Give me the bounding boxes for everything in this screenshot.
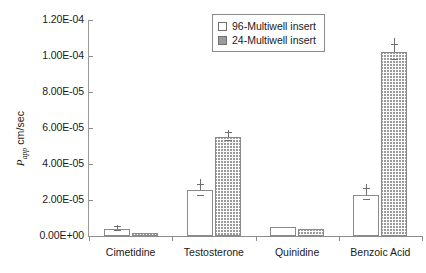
y-axis-tick-label: 2.00E-05 bbox=[42, 193, 84, 205]
bar-group bbox=[270, 20, 324, 236]
bar-group bbox=[187, 20, 241, 236]
y-axis-tick-label: 0.00E+00 bbox=[40, 229, 84, 241]
error-bar bbox=[394, 38, 395, 52]
y-axis-title: Papp cm/sec bbox=[12, 84, 32, 194]
y-axis-tick-label: 1.20E-04 bbox=[42, 13, 84, 25]
bar-group bbox=[104, 20, 158, 236]
error-bar-cap bbox=[363, 188, 370, 189]
legend-swatch-24-multiwell-icon bbox=[218, 36, 227, 45]
legend-label: 24-Multiwell insert bbox=[232, 34, 316, 46]
bar-24-multiwell bbox=[381, 52, 407, 236]
x-axis-category-label: Quinidine bbox=[256, 246, 339, 258]
error-bar-cap bbox=[391, 44, 398, 45]
x-axis-tick-mark bbox=[89, 236, 90, 241]
legend: 96-Multiwell insert24-Multiwell insert bbox=[212, 14, 325, 52]
legend-swatch-96-multiwell-icon bbox=[218, 22, 227, 31]
bar-96-multiwell bbox=[353, 195, 379, 236]
x-axis-category-label: Testosterone bbox=[172, 246, 255, 258]
error-bar-cap bbox=[114, 230, 121, 231]
plot-area bbox=[89, 20, 422, 236]
x-axis-tick-mark bbox=[339, 236, 340, 241]
legend-item: 24-Multiwell insert bbox=[218, 33, 316, 47]
error-bar bbox=[200, 179, 201, 190]
bar-96-multiwell bbox=[270, 227, 296, 236]
y-axis-tick-label: 6.00E-05 bbox=[42, 121, 84, 133]
error-bar-cap bbox=[391, 59, 398, 60]
bar-96-multiwell bbox=[187, 190, 213, 236]
x-axis-category-label: Cimetidine bbox=[89, 246, 172, 258]
bar-24-multiwell bbox=[298, 229, 324, 236]
x-axis-tick-mark bbox=[422, 236, 423, 241]
y-axis-tick-label: 4.00E-05 bbox=[42, 157, 84, 169]
x-axis-category-label: Benzoic Acid bbox=[339, 246, 422, 258]
error-bar bbox=[228, 130, 229, 137]
error-bar-cap bbox=[197, 184, 204, 185]
y-axis-tick-label: 1.00E-04 bbox=[42, 49, 84, 61]
legend-item: 96-Multiwell insert bbox=[218, 19, 316, 33]
error-bar-cap bbox=[363, 199, 370, 200]
error-bar-cap bbox=[225, 140, 232, 141]
error-bar bbox=[366, 184, 367, 195]
error-bar-cap bbox=[114, 226, 121, 227]
error-bar-cap bbox=[225, 132, 232, 133]
y-axis-tick-label: 8.00E-05 bbox=[42, 85, 84, 97]
error-bar-cap bbox=[197, 195, 204, 196]
x-axis-tick-mark bbox=[172, 236, 173, 241]
y-axis-title-text: Papp cm/sec bbox=[14, 111, 29, 166]
x-axis-tick-mark bbox=[256, 236, 257, 241]
bar-chart: Papp cm/sec 0.00E+002.00E-054.00E-056.00… bbox=[0, 0, 426, 273]
bar-group bbox=[353, 20, 407, 236]
bar-24-multiwell bbox=[215, 137, 241, 236]
legend-label: 96-Multiwell insert bbox=[232, 20, 316, 32]
